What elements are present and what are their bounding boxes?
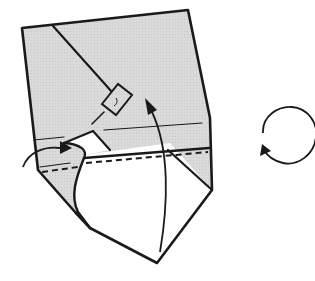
origami-diagram <box>0 0 315 281</box>
turn-over-icon <box>260 107 315 164</box>
